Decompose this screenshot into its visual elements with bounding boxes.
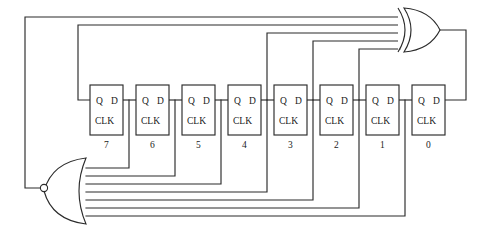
ff3-q-label: Q <box>280 96 287 106</box>
ff5-q-label: Q <box>188 96 195 106</box>
flipflop-6[interactable]: Q D CLK 6 <box>136 85 169 150</box>
ff7-d-label: D <box>111 96 118 106</box>
circuit-schematic: Q D CLK 7 Q D CLK 6 Q D CLK 5 Q D CLK 4 <box>0 0 487 241</box>
ff2-clk-label: CLK <box>325 116 344 126</box>
flipflop-7[interactable]: Q D CLK 7 <box>90 85 123 150</box>
ff7-q-label: Q <box>96 96 103 106</box>
ff5-index-label: 5 <box>196 140 201 150</box>
ff5-clk-label: CLK <box>187 116 206 126</box>
ff0-clk-label: CLK <box>417 116 436 126</box>
ff0-index-label: 0 <box>426 140 431 150</box>
ff7-index-label: 7 <box>104 140 109 150</box>
flipflop-4[interactable]: Q D CLK 4 <box>228 85 261 150</box>
ff4-clk-label: CLK <box>233 116 252 126</box>
ff1-q-label: Q <box>372 96 379 106</box>
ff3-index-label: 3 <box>288 140 293 150</box>
ff6-index-label: 6 <box>150 140 155 150</box>
ff3-clk-label: CLK <box>279 116 298 126</box>
ff5-d-label: D <box>203 96 210 106</box>
ff4-q-label: Q <box>234 96 241 106</box>
ff4-index-label: 4 <box>242 140 247 150</box>
flipflop-5[interactable]: Q D CLK 5 <box>182 85 215 150</box>
ff0-q-label: Q <box>418 96 425 106</box>
flipflop-0[interactable]: Q D CLK 0 <box>412 85 445 150</box>
xor-gate[interactable] <box>398 8 440 52</box>
ff1-clk-label: CLK <box>371 116 390 126</box>
ff1-index-label: 1 <box>380 140 385 150</box>
ff2-d-label: D <box>341 96 348 106</box>
ff7-clk-label: CLK <box>95 116 114 126</box>
flipflop-2[interactable]: Q D CLK 2 <box>320 85 353 150</box>
ff6-d-label: D <box>157 96 164 106</box>
ff2-q-label: Q <box>326 96 333 106</box>
ff6-clk-label: CLK <box>141 116 160 126</box>
ff0-d-label: D <box>433 96 440 106</box>
ff2-index-label: 2 <box>334 140 339 150</box>
ff1-d-label: D <box>387 96 394 106</box>
nor-gate[interactable] <box>40 158 86 224</box>
nor-inversion-bubble <box>40 184 47 191</box>
flipflop-3[interactable]: Q D CLK 3 <box>274 85 307 150</box>
ff3-d-label: D <box>295 96 302 106</box>
ff4-d-label: D <box>249 96 256 106</box>
flipflop-1[interactable]: Q D CLK 1 <box>366 85 399 150</box>
lfsr-diagram: Q D CLK 7 Q D CLK 6 Q D CLK 5 Q D CLK 4 <box>0 0 487 241</box>
ff6-q-label: Q <box>142 96 149 106</box>
